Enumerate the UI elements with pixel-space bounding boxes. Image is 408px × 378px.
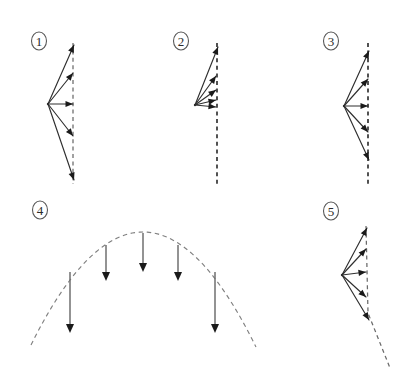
panel-label-number: 3 [328, 34, 335, 49]
dashed-guide-bent-path [366, 226, 390, 368]
ray-arrowhead-5 [208, 103, 216, 109]
ray-vertex-point [47, 103, 49, 105]
ray-line-1 [48, 45, 74, 104]
panel-group-1: 1 [32, 32, 75, 184]
ray-vertex-point [341, 274, 343, 276]
field-arrowhead-5 [211, 324, 219, 333]
panel-label-2: 2 [174, 32, 189, 50]
ray-vertex-point [343, 105, 345, 107]
ray-arrowhead-3 [358, 270, 366, 276]
panel-label-number: 1 [36, 34, 43, 49]
panel-group-3: 3 [324, 32, 370, 187]
panel-label-3: 3 [324, 32, 339, 50]
panel-group-4: 4 [31, 201, 256, 347]
ray-arrowhead-4 [66, 128, 73, 136]
panel-label-4: 4 [33, 201, 48, 219]
figure-root: 12345 [0, 0, 408, 378]
field-arrowhead-4 [174, 272, 182, 281]
panel-group-2: 2 [174, 32, 219, 184]
field-arrowhead-2 [102, 272, 110, 281]
field-arrowhead-1 [66, 324, 74, 333]
ray-line-5 [344, 106, 369, 160]
panel-group-5: 5 [324, 202, 391, 368]
diagram-canvas: 12345 [0, 0, 408, 378]
ray-arrowhead-3 [208, 90, 216, 97]
ray-line-5 [342, 275, 369, 320]
ray-arrowhead-2 [209, 76, 216, 84]
ray-line-5 [48, 104, 74, 180]
ray-arrowhead-3 [361, 103, 369, 109]
panel-label-number: 4 [37, 203, 44, 218]
field-arrowhead-3 [139, 263, 147, 272]
ray-line-1 [344, 51, 369, 106]
ray-arrowhead-5 [69, 172, 75, 180]
panel-label-number: 2 [178, 34, 185, 49]
panel-label-5: 5 [324, 202, 339, 220]
generated-diagram-layer: 12345 [31, 32, 390, 368]
ray-arrowhead-1 [68, 45, 74, 53]
ray-arrowhead-3 [66, 101, 74, 107]
panel-label-1: 1 [32, 32, 47, 50]
panel-label-number: 5 [328, 204, 335, 219]
ray-arrowhead-5 [362, 312, 369, 320]
ray-arrowhead-1 [212, 47, 218, 55]
ray-vertex-point [194, 104, 196, 106]
